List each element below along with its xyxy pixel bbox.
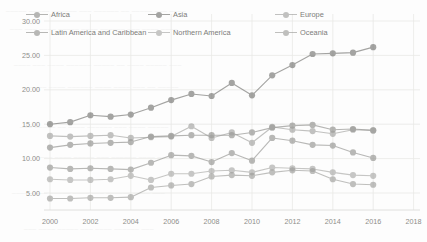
data-point-marker xyxy=(188,91,194,97)
data-point-marker xyxy=(229,150,235,156)
data-point-marker xyxy=(128,135,134,141)
data-point-marker xyxy=(209,135,215,141)
x-axis-tick-label: 2018 xyxy=(406,217,422,226)
plot-area: 5.0010.0015.0020.0025.0030.00 2000200220… xyxy=(0,0,427,242)
x-axis-tick-label: 2006 xyxy=(163,217,179,226)
data-point-marker xyxy=(229,129,235,135)
x-axis-tick-label: 2008 xyxy=(204,217,220,226)
data-point-marker xyxy=(128,111,134,117)
data-point-marker xyxy=(229,80,235,86)
data-point-marker xyxy=(47,144,53,150)
data-point-marker xyxy=(269,72,275,78)
data-point-marker xyxy=(188,181,194,187)
y-axis-tick-label: 30.00 xyxy=(22,17,40,26)
y-axis-tick-label: 15.00 xyxy=(22,120,40,129)
data-point-marker xyxy=(209,168,215,174)
data-point-marker xyxy=(47,164,53,170)
data-point-marker xyxy=(67,142,73,148)
data-point-marker xyxy=(330,142,336,148)
x-axis-tick-label: 2004 xyxy=(123,217,139,226)
data-point-marker xyxy=(47,176,53,182)
x-axis-tick-label: 2010 xyxy=(244,217,260,226)
data-point-marker xyxy=(67,119,73,125)
data-point-marker xyxy=(128,173,134,179)
data-point-marker xyxy=(168,171,174,177)
data-point-marker xyxy=(67,133,73,139)
x-axis-tick-label: 2016 xyxy=(365,217,381,226)
data-point-marker xyxy=(47,133,53,139)
data-point-marker xyxy=(87,195,93,201)
data-point-marker xyxy=(330,169,336,175)
data-point-marker xyxy=(330,50,336,56)
y-axis-tick-label: 25.00 xyxy=(22,51,40,60)
data-point-marker xyxy=(148,105,154,111)
data-point-marker xyxy=(310,128,316,134)
data-point-marker xyxy=(148,160,154,166)
data-point-marker xyxy=(67,177,73,183)
data-point-marker xyxy=(87,177,93,183)
data-point-marker xyxy=(249,129,255,135)
data-point-marker xyxy=(209,93,215,99)
data-point-marker xyxy=(87,165,93,171)
data-point-marker xyxy=(249,158,255,164)
x-axis-tick-label: 2014 xyxy=(325,217,341,226)
data-point-marker xyxy=(330,176,336,182)
data-point-marker xyxy=(47,121,53,127)
y-axis-tick-label: 20.00 xyxy=(22,85,40,94)
data-point-marker xyxy=(350,172,356,178)
data-point-marker xyxy=(108,166,114,172)
x-axis-tick-label: 2012 xyxy=(284,217,300,226)
data-point-marker xyxy=(168,182,174,188)
data-point-marker xyxy=(350,149,356,155)
data-point-marker xyxy=(148,134,154,140)
data-point-marker xyxy=(128,194,134,200)
data-point-marker xyxy=(188,132,194,138)
data-point-marker xyxy=(269,124,275,130)
data-point-marker xyxy=(229,172,235,178)
data-point-marker xyxy=(370,127,376,133)
line-chart: _____ _____ ______ ___ ______ __ _____ _… xyxy=(0,0,427,242)
x-axis-tick-labels: 2000200220042006200820102012201420162018 xyxy=(42,217,422,226)
x-axis-tick-label: 2000 xyxy=(42,217,58,226)
data-point-marker xyxy=(370,44,376,50)
data-point-marker xyxy=(249,173,255,179)
y-axis-tick-label: 10.00 xyxy=(22,154,40,163)
data-point-marker xyxy=(87,140,93,146)
data-point-marker xyxy=(87,133,93,139)
data-point-marker xyxy=(249,92,255,98)
data-point-marker xyxy=(168,97,174,103)
x-axis-tick-label: 2002 xyxy=(82,217,98,226)
data-point-marker xyxy=(269,169,275,175)
data-point-marker xyxy=(209,159,215,165)
data-point-marker xyxy=(67,195,73,201)
data-point-marker xyxy=(47,195,53,201)
data-point-marker xyxy=(108,114,114,120)
data-point-marker xyxy=(168,152,174,158)
data-point-marker xyxy=(310,122,316,128)
data-point-marker xyxy=(370,155,376,161)
data-point-marker xyxy=(108,176,114,182)
data-point-marker xyxy=(269,135,275,141)
data-point-marker xyxy=(330,131,336,137)
data-point-marker xyxy=(289,167,295,173)
data-point-marker xyxy=(370,182,376,188)
data-point-marker xyxy=(108,132,114,138)
data-point-marker xyxy=(310,142,316,148)
data-point-marker xyxy=(350,181,356,187)
data-point-marker xyxy=(289,62,295,68)
data-point-marker xyxy=(168,133,174,139)
data-point-marker xyxy=(209,173,215,179)
data-point-marker xyxy=(67,166,73,172)
data-point-marker xyxy=(108,140,114,146)
data-point-marker xyxy=(188,153,194,159)
data-point-marker xyxy=(289,127,295,133)
data-point-marker xyxy=(188,123,194,129)
data-point-marker xyxy=(289,138,295,144)
data-point-marker xyxy=(87,112,93,118)
data-point-marker xyxy=(108,195,114,201)
data-point-marker xyxy=(310,168,316,174)
data-point-marker xyxy=(350,50,356,56)
data-point-marker xyxy=(350,127,356,133)
data-point-marker xyxy=(310,51,316,57)
gridlines xyxy=(44,14,420,210)
